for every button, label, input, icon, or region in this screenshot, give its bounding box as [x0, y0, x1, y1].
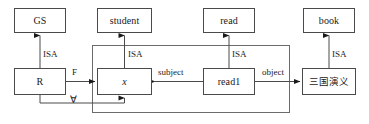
- edge-label-f: F: [72, 68, 77, 77]
- edge-forall-loop: [40, 95, 125, 103]
- diagram-canvas: GS student read book R x read1 三国演义 ISA …: [0, 0, 369, 124]
- node-read1[interactable]: read1: [203, 68, 255, 95]
- node-read[interactable]: read: [203, 8, 255, 33]
- edge-label-isa-x-student: ISA: [128, 50, 143, 59]
- edge-label-object: object: [262, 68, 284, 77]
- quantifier-forall-label: ∀: [70, 95, 77, 105]
- node-read1-label: read1: [218, 77, 241, 87]
- node-read-label: read: [220, 16, 238, 26]
- node-sanguoyanyi[interactable]: 三国演义: [302, 68, 356, 95]
- node-gs[interactable]: GS: [14, 8, 66, 33]
- edge-label-isa-read1-read: ISA: [232, 50, 247, 59]
- edge-label-isa-r-gs: ISA: [43, 50, 58, 59]
- node-book[interactable]: book: [303, 8, 355, 33]
- node-r[interactable]: R: [14, 68, 66, 95]
- node-r-label: R: [37, 77, 44, 87]
- node-x[interactable]: x: [97, 68, 152, 95]
- node-book-label: book: [319, 16, 339, 26]
- node-gs-label: GS: [34, 16, 47, 26]
- node-x-label: x: [122, 77, 127, 87]
- edge-label-isa-sanguo-book: ISA: [332, 50, 347, 59]
- edge-label-subject: subject: [158, 68, 184, 77]
- node-sanguoyanyi-label: 三国演义: [309, 77, 349, 87]
- node-student-label: student: [110, 16, 140, 26]
- node-student[interactable]: student: [97, 8, 152, 33]
